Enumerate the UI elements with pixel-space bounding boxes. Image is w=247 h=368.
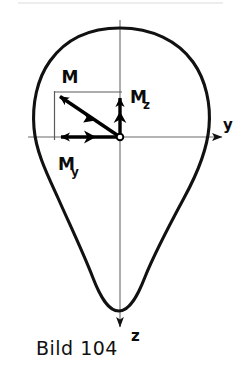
origin-marker <box>117 134 124 141</box>
figure-drawing: M M y M z y z Bild 104 <box>0 0 247 368</box>
vector-label-My-subscript: y <box>71 165 79 179</box>
figure-container: M M y M z y z Bild 104 <box>0 0 247 368</box>
vector-label-M: M <box>62 67 79 87</box>
axis-label-z: z <box>131 327 140 345</box>
vector-label-My: M y <box>58 154 79 179</box>
vector-Mz <box>114 98 127 137</box>
vector-label-Mz-subscript: z <box>143 98 150 112</box>
vector-M <box>60 97 120 138</box>
vector-label-Mz: M z <box>130 87 150 112</box>
figure-caption: Bild 104 <box>36 337 118 359</box>
axis-label-y: y <box>223 116 233 134</box>
